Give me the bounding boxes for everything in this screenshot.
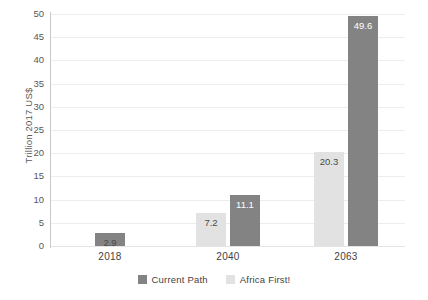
bar-2018-current-path[interactable]: 2.9 [95, 233, 125, 246]
y-tick-label-45: 45 [4, 32, 44, 42]
bar-2040-africa-first[interactable]: 7.2 [196, 213, 226, 246]
y-tick-label-50: 50 [4, 9, 44, 19]
y-tick-label-20: 20 [4, 148, 44, 158]
legend-swatch-icon [226, 275, 235, 284]
plot-area: 2.97.211.120.349.6 [51, 14, 405, 246]
bar-value-label: 49.6 [354, 20, 373, 31]
bar-chart: Trillion 2017 US$ 05101520253035404550 2… [0, 0, 428, 300]
x-tick-label-2063: 2063 [316, 251, 376, 262]
x-tick-label-2018: 2018 [80, 251, 140, 262]
bar-2063-africa-first[interactable]: 20.3 [314, 152, 344, 246]
gridline-50 [51, 14, 405, 15]
legend-swatch-icon [138, 275, 147, 284]
legend-label: Current Path [152, 274, 208, 285]
bar-value-label: 2.9 [103, 237, 116, 248]
y-tick-label-10: 10 [4, 195, 44, 205]
bar-value-label: 7.2 [204, 217, 217, 228]
bar-value-label: 11.1 [236, 199, 254, 210]
bar-value-label: 20.3 [320, 156, 339, 167]
legend-item-current-path[interactable]: Current Path [138, 274, 208, 285]
legend-label: Africa First! [240, 274, 291, 285]
y-tick-label-35: 35 [4, 79, 44, 89]
y-tick-label-0: 0 [4, 241, 44, 251]
y-tick-label-5: 5 [4, 218, 44, 228]
bar-2063-current-path[interactable]: 49.6 [348, 16, 378, 246]
x-tick-label-2040: 2040 [198, 251, 258, 262]
y-tick-label-40: 40 [4, 55, 44, 65]
y-tick-label-30: 30 [4, 102, 44, 112]
chart-legend: Current PathAfrica First! [0, 274, 428, 285]
legend-item-africa-first[interactable]: Africa First! [226, 274, 291, 285]
y-tick-label-15: 15 [4, 171, 44, 181]
y-tick-label-25: 25 [4, 125, 44, 135]
bar-2040-current-path[interactable]: 11.1 [230, 195, 260, 247]
